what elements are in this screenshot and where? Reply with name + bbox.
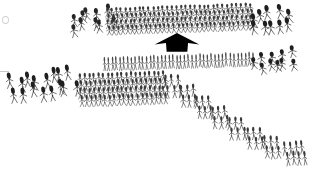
formation-mid-right-cavalry — [252, 53, 296, 73]
artifact-edge-dash — [0, 71, 9, 72]
formation-echelon-5 — [227, 118, 245, 140]
formation-glyphs — [283, 142, 305, 166]
attack-direction-arrow — [154, 33, 200, 52]
battle-formation-diagram — [0, 0, 328, 189]
formation-glyphs — [262, 137, 280, 159]
formation-echelon-4 — [210, 107, 228, 129]
formation-echelon-8 — [283, 142, 305, 166]
formation-echelon-6 — [245, 128, 263, 150]
formation-glyphs — [246, 10, 292, 34]
formation-glyphs — [252, 53, 296, 73]
formation-glyphs — [8, 74, 76, 100]
formation-glyphs — [245, 128, 263, 150]
formation-glyphs — [103, 56, 255, 68]
formation-echelon-7 — [262, 137, 280, 159]
formation-glyphs — [227, 118, 245, 140]
formation-glyphs — [78, 74, 166, 106]
artifact-edge-blob — [2, 16, 9, 24]
formation-bottom-left-cavalry — [8, 74, 76, 100]
formation-mid-center-infantry — [103, 56, 255, 68]
formation-bottom-center-infantry — [78, 74, 166, 106]
formation-top-center-infantry — [105, 7, 253, 33]
formation-top-right-cavalry — [246, 10, 292, 34]
formation-glyphs — [210, 107, 228, 129]
formation-glyphs — [105, 7, 253, 33]
